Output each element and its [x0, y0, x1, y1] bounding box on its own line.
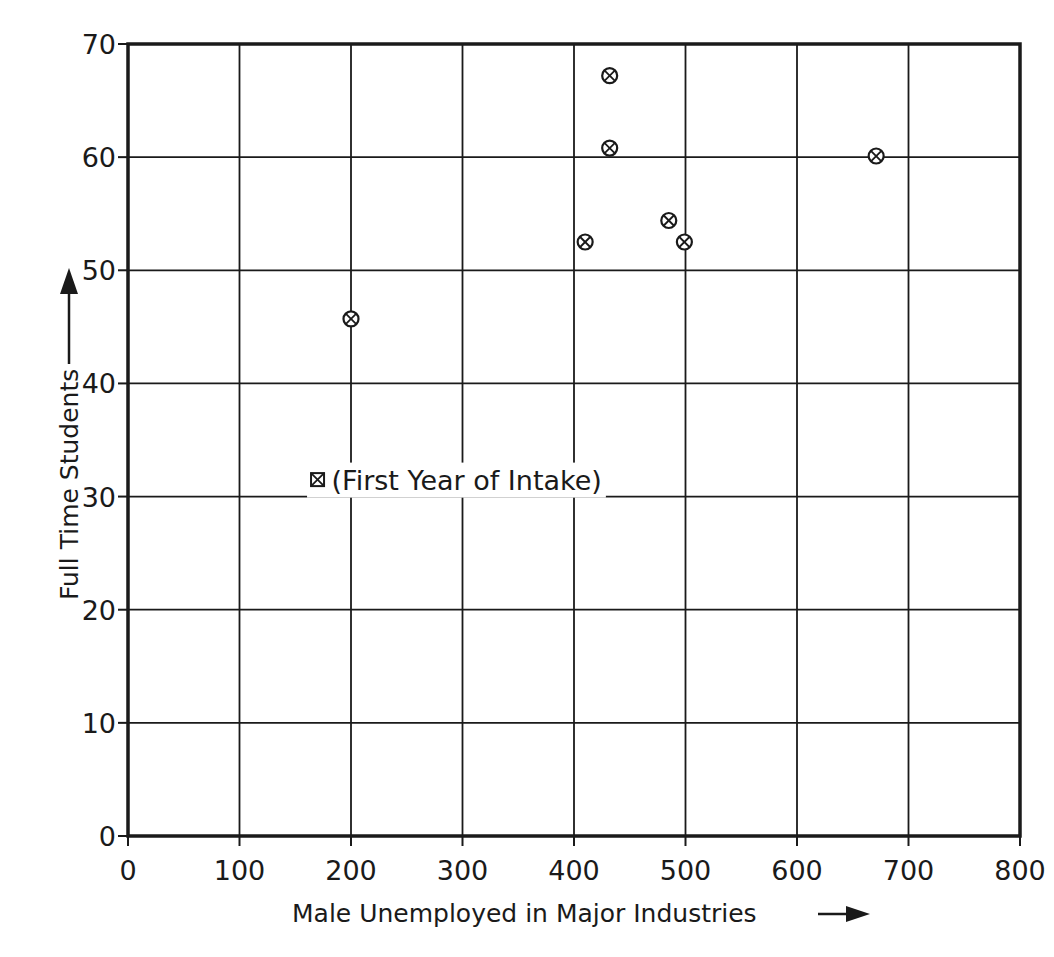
- x-tick-label: 300: [437, 855, 489, 886]
- x-axis-label: Male Unemployed in Major Industries: [292, 899, 757, 928]
- circle-x-marker-icon: [869, 149, 884, 164]
- x-tick-label: 800: [994, 855, 1046, 886]
- x-tick-label: 700: [883, 855, 935, 886]
- circle-x-marker-icon: [661, 213, 676, 228]
- circle-x-marker-icon: [602, 68, 617, 83]
- scatter-chart: 0100200300400500600700800 01020304050607…: [0, 0, 1054, 957]
- y-tick-label: 0: [99, 821, 116, 852]
- x-tick-label: 200: [325, 855, 377, 886]
- y-tick-label: 50: [82, 255, 116, 286]
- x-tick-label: 100: [214, 855, 266, 886]
- circle-x-marker-icon: [344, 311, 359, 326]
- legend: (First Year of Intake): [307, 463, 606, 498]
- y-tick-label: 40: [82, 368, 116, 399]
- x-axis-ticks: 0100200300400500600700800: [119, 836, 1045, 886]
- right-arrow-icon: [818, 906, 870, 922]
- legend-label: (First Year of Intake): [332, 465, 602, 496]
- y-axis-title: Full Time Students: [55, 268, 84, 600]
- y-axis-ticks: 010203040506070: [82, 29, 128, 852]
- x-tick-label: 600: [771, 855, 823, 886]
- y-axis-label: Full Time Students: [55, 369, 84, 600]
- y-tick-label: 60: [82, 142, 116, 173]
- y-tick-label: 70: [82, 29, 116, 60]
- data-points: [344, 68, 884, 326]
- circle-x-marker-icon: [578, 235, 593, 250]
- up-arrow-icon: [60, 268, 78, 364]
- y-tick-label: 20: [82, 595, 116, 626]
- circle-x-marker-icon: [677, 235, 692, 250]
- x-tick-label: 0: [119, 855, 136, 886]
- x-tick-label: 500: [660, 855, 712, 886]
- square-x-marker-icon: [311, 473, 324, 486]
- circle-x-marker-icon: [602, 141, 617, 156]
- x-axis-title: Male Unemployed in Major Industries: [292, 899, 870, 928]
- y-tick-label: 30: [82, 482, 116, 513]
- x-tick-label: 400: [548, 855, 600, 886]
- y-tick-label: 10: [82, 708, 116, 739]
- grid-lines: [128, 44, 1020, 836]
